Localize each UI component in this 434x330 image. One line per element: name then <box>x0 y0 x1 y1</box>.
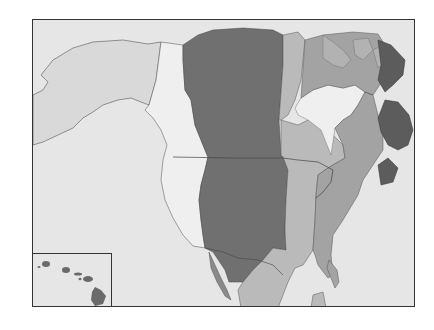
yucatan <box>311 292 326 307</box>
hawaii-inset <box>32 253 112 307</box>
island-molokai <box>74 273 82 276</box>
region-atlantic <box>378 40 413 185</box>
region-alaska <box>33 40 161 145</box>
island-oahu <box>62 267 70 273</box>
island-niihau <box>38 266 41 268</box>
island-lanai <box>79 278 82 280</box>
island-maui <box>83 276 93 282</box>
island-big-island <box>91 287 106 306</box>
island-kauai <box>42 261 50 267</box>
hawaii-canvas <box>33 254 113 308</box>
